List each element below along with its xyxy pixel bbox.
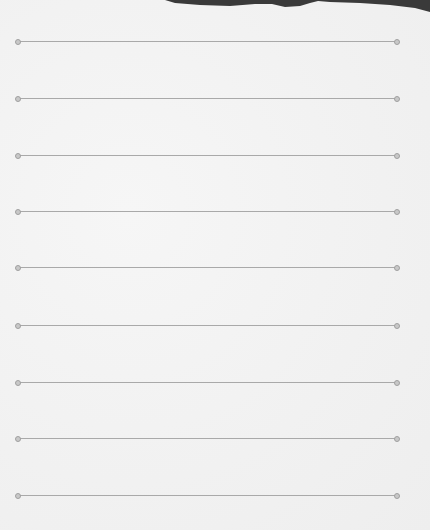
ruled-line-4 xyxy=(18,211,397,212)
line-endpoint-dot xyxy=(15,323,21,329)
line-endpoint-dot xyxy=(394,96,400,102)
ruled-line-6 xyxy=(18,325,397,326)
line-endpoint-dot xyxy=(394,265,400,271)
ruled-line-1 xyxy=(18,41,397,42)
line-endpoint-dot xyxy=(15,39,21,45)
line-endpoint-dot xyxy=(15,436,21,442)
line-endpoint-dot xyxy=(15,96,21,102)
line-endpoint-dot xyxy=(15,493,21,499)
ruled-line-8 xyxy=(18,438,397,439)
lined-paper-sheet xyxy=(0,0,430,530)
line-endpoint-dot xyxy=(394,436,400,442)
line-endpoint-dot xyxy=(15,265,21,271)
line-endpoint-dot xyxy=(15,209,21,215)
ruled-line-2 xyxy=(18,98,397,99)
ruled-line-5 xyxy=(18,267,397,268)
line-endpoint-dot xyxy=(15,153,21,159)
line-endpoint-dot xyxy=(394,380,400,386)
ruled-line-7 xyxy=(18,382,397,383)
line-endpoint-dot xyxy=(394,493,400,499)
line-endpoint-dot xyxy=(394,39,400,45)
dark-background-edge xyxy=(0,0,430,40)
line-endpoint-dot xyxy=(394,209,400,215)
line-endpoint-dot xyxy=(15,380,21,386)
line-endpoint-dot xyxy=(394,323,400,329)
ruled-line-3 xyxy=(18,155,397,156)
line-endpoint-dot xyxy=(394,153,400,159)
ruled-line-9 xyxy=(18,495,397,496)
